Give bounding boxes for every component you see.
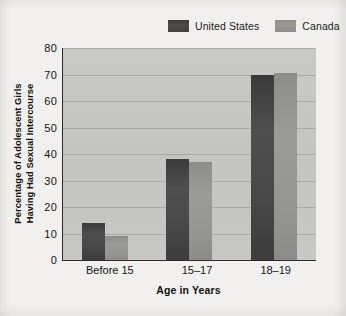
y-axis-tick-80: 80 — [44, 42, 57, 54]
bar-united-states-1 — [166, 159, 189, 260]
y-axis-tick-30: 30 — [44, 175, 57, 187]
bar-group-15-17 — [166, 48, 212, 260]
y-axis-title-line-2: Having Had Sexual Intercourse — [23, 83, 35, 223]
x-axis-tick-0: Before 15 — [86, 264, 134, 276]
bar-canada-2 — [274, 73, 297, 260]
legend-item-canada: Canada — [275, 20, 339, 32]
bar-united-states-2 — [251, 75, 274, 261]
bar-canada-1 — [189, 162, 212, 260]
y-axis-tick-10: 10 — [44, 228, 57, 240]
legend-swatch-united-states-icon — [168, 20, 189, 32]
y-axis-tick-50: 50 — [44, 122, 57, 134]
legend-label-canada: Canada — [302, 20, 339, 32]
chart-figure: United States Canada Percentage of Adole… — [0, 0, 346, 316]
chart-legend: United States Canada — [168, 20, 340, 32]
x-axis-tick-2: 18–19 — [260, 264, 291, 276]
bar-canada-0 — [105, 236, 128, 260]
y-axis-tick-60: 60 — [44, 95, 57, 107]
bar-group-before-15 — [82, 48, 128, 260]
legend-label-united-states: United States — [195, 20, 259, 32]
y-axis-tick-labels: 01020304050607080 — [36, 48, 60, 260]
bar-group-18-19 — [251, 48, 297, 260]
y-axis-tick-20: 20 — [44, 201, 57, 213]
bar-united-states-0 — [82, 223, 105, 260]
x-axis-tick-1: 15–17 — [182, 264, 213, 276]
legend-item-united-states: United States — [168, 20, 259, 32]
y-axis-tick-70: 70 — [44, 69, 57, 81]
bar-groups — [63, 48, 316, 260]
y-axis-tick-0: 0 — [51, 254, 57, 266]
x-axis-title: Age in Years — [62, 284, 315, 296]
plot-area — [62, 48, 316, 261]
y-axis-title: Percentage of Adolescent Girls Having Ha… — [10, 44, 36, 262]
x-axis-tick-labels: Before 1515–1718–19 — [62, 264, 315, 276]
legend-swatch-canada-icon — [275, 20, 296, 32]
y-axis-tick-40: 40 — [44, 148, 57, 160]
y-axis-title-line-1: Percentage of Adolescent Girls — [12, 83, 24, 223]
